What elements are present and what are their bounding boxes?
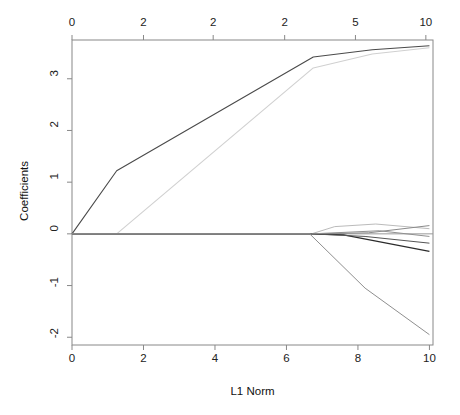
top-tick-label-0: 0 [69, 16, 75, 28]
tick-marks [67, 35, 429, 350]
series-paths [72, 46, 429, 335]
bottom-tick-label-2: 4 [212, 352, 218, 364]
left-tick-label-2: 1 [48, 173, 60, 179]
x-axis-title: L1 Norm [230, 385, 274, 397]
coefficient-path-plot: 0222510 0246810 3210-1-2 L1 Norm Coeffic… [0, 0, 460, 415]
coef-path-6 [72, 234, 429, 243]
bottom-tick-label-5: 10 [423, 352, 436, 364]
left-tick-label-0: 3 [48, 70, 60, 76]
left-tick-label-4: -1 [48, 277, 60, 287]
plot-frame [72, 40, 433, 345]
coef-path-1 [72, 46, 429, 234]
coef-path-2 [72, 48, 429, 234]
coef-path-5 [72, 234, 429, 252]
bottom-tick-label-3: 6 [283, 352, 289, 364]
bottom-tick-label-1: 2 [140, 352, 146, 364]
top-tick-label-4: 5 [352, 16, 358, 28]
y-axis-title: Coefficients [18, 161, 30, 221]
top-tick-label-2: 2 [210, 16, 216, 28]
top-tick-label-3: 2 [281, 16, 287, 28]
top-tick-label-5: 10 [419, 16, 432, 28]
bottom-tick-label-0: 0 [69, 352, 75, 364]
bottom-tick-label-4: 8 [355, 352, 361, 364]
coef-path-8 [72, 234, 429, 335]
left-tick-label-1: 2 [48, 121, 60, 127]
left-tick-label-5: -2 [48, 328, 60, 338]
top-tick-label-1: 2 [140, 16, 146, 28]
left-tick-label-3: 0 [48, 225, 60, 231]
